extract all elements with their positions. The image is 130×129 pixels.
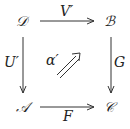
- morphism-label-right: G: [114, 55, 125, 69]
- two-cell-label: α′: [46, 53, 59, 67]
- morphism-label-top: V′: [60, 4, 73, 18]
- object-top-left: 𝒟: [16, 14, 27, 28]
- double-arrow-icon: [57, 53, 80, 78]
- morphism-label-bottom: F: [63, 109, 73, 123]
- morphism-label-left: U′: [4, 55, 19, 69]
- object-bottom-left: 𝒜: [16, 100, 29, 114]
- object-bottom-right: 𝒞: [104, 100, 114, 114]
- object-top-right: ℬ: [104, 14, 115, 28]
